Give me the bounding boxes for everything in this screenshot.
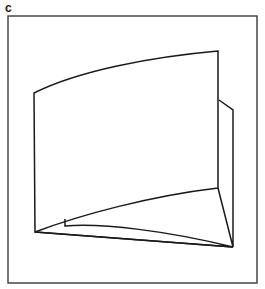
bottom-wedge-flap-shape [35,219,233,247]
line-drawing-figure [0,0,265,289]
right-side-flap-shape [218,100,233,247]
figure-panel: c [0,0,265,289]
curved-sheet-drawing [34,51,233,247]
figure-frame-border [8,16,257,283]
main-panel-shape [34,51,218,232]
